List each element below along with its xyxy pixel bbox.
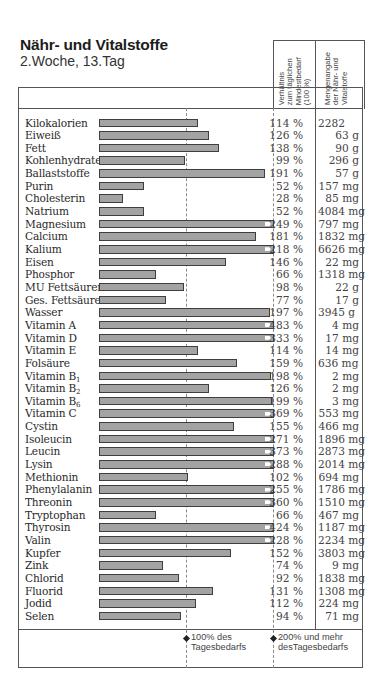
amount-value: 4 mg xyxy=(318,319,359,332)
nutrient-bar xyxy=(99,169,265,178)
nutrient-bar xyxy=(99,561,163,570)
percent-value: 66 % xyxy=(276,268,303,281)
amount-value: 553 mg xyxy=(318,407,359,420)
amount-value: 2014 mg xyxy=(318,458,359,471)
table-row: Phosphor66 %1318 mg xyxy=(0,268,381,281)
nutrient-bar xyxy=(99,296,166,305)
percent-value: 288 % xyxy=(269,458,303,471)
nutrient-label: Kalium xyxy=(25,243,62,256)
percent-value: 126 % xyxy=(269,382,303,395)
nutrient-label: Zink xyxy=(25,559,48,572)
nutrient-bar xyxy=(99,220,274,229)
table-row: Kalium218 %6626 mg xyxy=(0,243,381,256)
table-row: Vitamin B1198 %2 mg xyxy=(0,370,381,383)
table-row: Phenylalanin255 %1786 mg xyxy=(0,483,381,496)
nutrient-bar xyxy=(99,245,274,254)
nutrient-bar xyxy=(99,194,123,203)
nutrient-bar xyxy=(99,372,271,381)
nutrient-label: Phenylalanin xyxy=(25,483,92,496)
nutrient-label: Eiweiß xyxy=(25,129,61,142)
nutrient-label: Vitamin A xyxy=(25,319,76,332)
percent-value: 146 % xyxy=(269,256,303,269)
nutrient-bar xyxy=(99,384,209,393)
percent-value: 373 % xyxy=(269,445,303,458)
nutrient-label: Wasser xyxy=(25,306,62,319)
percent-value: 98 % xyxy=(276,281,303,294)
nutrient-label: Ballaststoffe xyxy=(25,167,89,180)
nutrient-label: Cholesterin xyxy=(25,192,85,205)
amount-value: 2 mg xyxy=(318,382,359,395)
percent-value: 360 % xyxy=(269,496,303,509)
table-row: Methionin102 %694 mg xyxy=(0,471,381,484)
percent-value: 114 % xyxy=(269,117,303,130)
nutrient-label: Purin xyxy=(25,180,53,193)
amount-value: 14 mg xyxy=(318,344,359,357)
nutrient-bar xyxy=(99,473,188,482)
percent-value: 199 % xyxy=(269,395,303,408)
percent-value: 255 % xyxy=(269,483,303,496)
table-row: Tryptophan66 %467 mg xyxy=(0,509,381,522)
table-row: Threonin360 %1510 mg xyxy=(0,496,381,509)
amount-value: 1838 mg xyxy=(318,572,359,585)
amount-value: 466 mg xyxy=(318,420,359,433)
nutrient-label: Magnesium xyxy=(25,218,86,231)
percent-value: 102 % xyxy=(269,471,303,484)
amount-value: 3945 g xyxy=(318,306,359,319)
nutrient-label: Lysin xyxy=(25,458,52,471)
amount-value: 1786 mg xyxy=(318,483,359,496)
amount-value: 3803 mg xyxy=(318,547,359,560)
table-row: Kohlenhydrate99 %296 g xyxy=(0,154,381,167)
percent-value: 92 % xyxy=(276,572,303,585)
amount-value: 2 mg xyxy=(318,370,359,383)
nutrient-bar xyxy=(99,587,213,596)
table-row: Valin228 %2234 mg xyxy=(0,534,381,547)
page-title: Nähr- und Vitalstoffe xyxy=(20,36,168,54)
amount-value: 1308 mg xyxy=(318,585,359,598)
nutrient-bar xyxy=(99,536,274,545)
amount-value: 57 g xyxy=(318,167,359,180)
amount-value: 224 mg xyxy=(318,597,359,610)
nutrient-label: Isoleucin xyxy=(25,433,72,446)
amount-value: 157 mg xyxy=(318,180,359,193)
amount-value: 636 mg xyxy=(318,357,359,370)
table-row: Zink74 %9 mg xyxy=(0,559,381,572)
percent-value: 152 % xyxy=(269,547,303,560)
nutrient-bar xyxy=(99,359,237,368)
percent-value: 369 % xyxy=(269,407,303,420)
nutrient-label: Vitamin B2 xyxy=(25,382,80,395)
percent-value: 181 % xyxy=(269,230,303,243)
table-row: Jodid112 %224 mg xyxy=(0,597,381,610)
table-row: Vitamin B6199 %3 mg xyxy=(0,395,381,408)
nutrient-bar xyxy=(99,435,274,444)
amount-value: 71 mg xyxy=(318,610,359,623)
percent-value: 114 % xyxy=(269,344,303,357)
nutrient-label: Threonin xyxy=(25,496,72,509)
table-row: Cystin155 %466 mg xyxy=(0,420,381,433)
table-row: Vitamin A483 %4 mg xyxy=(0,319,381,332)
table-row: Wasser197 %3945 g xyxy=(0,306,381,319)
amount-value: 1510 mg xyxy=(318,496,359,509)
nutrient-label: Ges. Fettsäuren xyxy=(25,294,107,307)
table-row: Folsäure159 %636 mg xyxy=(0,357,381,370)
percent-value: 52 % xyxy=(276,180,303,193)
nutrient-bar xyxy=(99,574,179,583)
nutrient-bar xyxy=(99,156,185,165)
table-row: Eiweiß126 %63 g xyxy=(0,129,381,142)
nutrient-label: Leucin xyxy=(25,445,60,458)
amount-value: 9 mg xyxy=(318,559,359,572)
nutrient-bar xyxy=(99,447,274,456)
table-row: Fett138 %90 g xyxy=(0,142,381,155)
percent-value: 131 % xyxy=(269,585,303,598)
nutrient-label: Vitamin B6 xyxy=(25,395,80,408)
nutrient-label: Eisen xyxy=(25,256,54,269)
amount-value: 6626 mg xyxy=(318,243,359,256)
nutrient-label: MU Fettsäuren xyxy=(25,281,104,294)
nutrient-bar xyxy=(99,232,256,241)
table-row: Magnesium249 %797 mg xyxy=(0,218,381,231)
nutrient-label: Valin xyxy=(25,534,51,547)
table-row: Ges. Fettsäuren77 %17 g xyxy=(0,294,381,307)
table-row: Thyrosin424 %1187 mg xyxy=(0,521,381,534)
nutrient-bar xyxy=(99,397,272,406)
nutrient-bar xyxy=(99,422,234,431)
amount-value: 63 g xyxy=(318,129,359,142)
